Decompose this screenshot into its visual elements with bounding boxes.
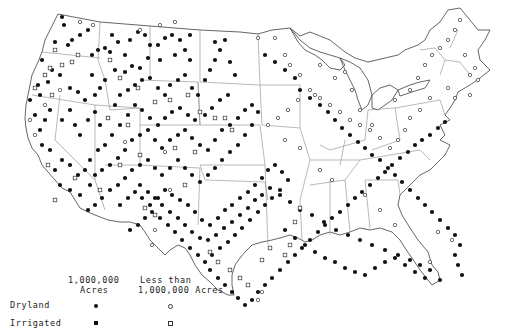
irrigated-small-marker	[43, 73, 47, 77]
dryland-large-marker	[456, 263, 460, 267]
dryland-large-marker	[293, 236, 297, 240]
dryland-large-marker	[288, 200, 292, 204]
dryland-large-marker	[400, 180, 404, 184]
dryland-small-marker	[378, 208, 381, 211]
dryland-small-marker	[138, 28, 141, 31]
dryland-large-marker	[38, 128, 42, 132]
irrigated-small-marker	[230, 128, 234, 132]
dryland-large-marker	[86, 28, 90, 32]
dryland-large-marker	[386, 166, 390, 170]
dryland-large-marker	[243, 303, 247, 307]
dryland-small-marker	[168, 188, 171, 191]
dryland-large-marker	[223, 283, 227, 287]
dryland-small-marker	[266, 123, 269, 126]
dryland-large-marker	[168, 210, 172, 214]
dryland-small-marker	[396, 138, 399, 141]
dryland-large-marker	[248, 218, 252, 222]
dryland-large-marker	[183, 128, 187, 132]
dryland-small-marker	[260, 290, 263, 293]
dryland-large-marker	[58, 183, 62, 187]
dryland-large-marker	[78, 33, 82, 37]
dryland-large-marker	[203, 78, 207, 82]
dryland-large-marker	[408, 258, 412, 262]
dryland-large-marker	[138, 163, 142, 167]
dryland-large-marker	[203, 113, 207, 117]
dryland-large-marker	[323, 256, 327, 260]
dryland-large-marker	[413, 270, 417, 274]
dryland-large-marker	[458, 243, 462, 247]
dryland-large-marker	[156, 123, 160, 127]
dryland-large-marker	[278, 268, 282, 272]
dryland-large-marker	[178, 38, 182, 42]
dryland-large-marker	[108, 188, 112, 192]
dryland-large-marker	[390, 163, 394, 167]
dryland-small-marker	[476, 78, 479, 81]
dryland-large-marker	[148, 203, 152, 207]
dryland-large-marker	[286, 178, 290, 182]
dryland-small-marker	[446, 38, 449, 41]
dryland-large-marker	[140, 78, 144, 82]
dryland-large-marker	[133, 103, 137, 107]
dryland-large-marker	[214, 233, 218, 237]
dryland-large-marker	[206, 173, 210, 177]
dryland-large-marker	[233, 233, 237, 237]
dryland-large-marker	[163, 36, 167, 40]
dryland-large-marker	[48, 108, 52, 112]
dryland-large-marker	[148, 116, 152, 120]
dryland-large-marker	[238, 196, 242, 200]
dryland-small-marker	[438, 46, 441, 49]
dryland-small-marker	[58, 88, 61, 91]
dryland-large-marker	[130, 64, 134, 68]
dryland-small-marker	[313, 93, 316, 96]
dryland-small-marker	[283, 53, 286, 56]
dryland-large-marker	[430, 210, 434, 214]
dryland-large-marker	[343, 266, 347, 270]
dryland-large-marker	[230, 220, 234, 224]
irrigated-small-marker	[33, 86, 37, 90]
dryland-large-marker	[138, 133, 142, 137]
dryland-small-marker	[256, 298, 259, 301]
dryland-small-marker	[78, 20, 81, 23]
dryland-large-marker	[318, 103, 322, 107]
dryland-large-marker	[293, 76, 297, 80]
dryland-small-marker	[150, 243, 153, 246]
dryland-large-marker	[346, 203, 350, 207]
markers-layer	[28, 15, 480, 307]
dryland-large-marker	[230, 290, 234, 294]
dryland-large-marker	[418, 263, 422, 267]
dryland-large-marker	[273, 163, 277, 167]
dryland-small-marker	[123, 140, 126, 143]
dryland-large-marker	[210, 106, 214, 110]
dryland-large-marker	[263, 283, 267, 287]
dryland-large-marker	[160, 146, 164, 150]
dryland-large-marker	[103, 78, 107, 82]
irrigated-small-marker	[118, 163, 122, 167]
dryland-small-marker	[33, 133, 36, 136]
dryland-small-marker	[468, 93, 471, 96]
dryland-large-marker	[340, 126, 344, 130]
dryland-large-marker	[143, 216, 147, 220]
dryland-large-marker	[148, 43, 152, 47]
dryland-large-marker	[78, 133, 82, 137]
dryland-large-marker	[283, 68, 287, 72]
dryland-large-marker	[393, 256, 397, 260]
dryland-large-marker	[246, 190, 250, 194]
dryland-large-marker	[260, 176, 264, 180]
dryland-large-marker	[136, 223, 140, 227]
dryland-large-marker	[103, 143, 107, 147]
dryland-small-marker	[328, 103, 331, 106]
irrigated-small-marker	[193, 150, 197, 154]
dryland-large-marker	[168, 166, 172, 170]
dryland-large-marker	[348, 133, 352, 137]
dryland-large-marker	[160, 203, 164, 207]
dryland-large-marker	[286, 260, 290, 264]
dryland-large-marker	[293, 253, 297, 257]
irrigated-small-marker	[53, 198, 57, 202]
dryland-large-marker	[266, 168, 270, 172]
dryland-large-marker	[166, 223, 170, 227]
dryland-large-marker	[198, 143, 202, 147]
dryland-large-marker	[110, 133, 114, 137]
dryland-small-marker	[368, 128, 371, 131]
dryland-small-marker	[288, 63, 291, 66]
dryland-large-marker	[183, 73, 187, 77]
